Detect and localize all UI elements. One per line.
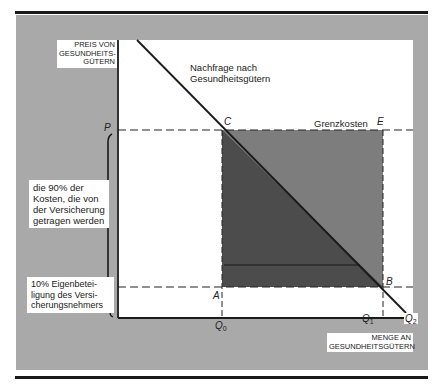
copay-note: 10% Eigenbetei- ligung des Versi- cherun…	[27, 277, 114, 313]
y-axis-label: PREIS VON GESUNDHEITS- GÜTERN	[57, 40, 117, 68]
x-axis-label-line: GESUNDHEITSGÜTERN	[329, 343, 411, 352]
q0-main: Q	[215, 320, 223, 331]
insurance-note-line: getragen werden	[33, 215, 105, 226]
point-label-p: P	[104, 122, 111, 133]
point-label-b: B	[386, 276, 393, 287]
q1-sub: 1	[370, 318, 374, 325]
tick-label-q0: Q0	[215, 320, 227, 331]
tick-label-q2: Q2	[404, 313, 418, 324]
q1-main: Q	[362, 313, 370, 324]
point-label-a: A	[213, 290, 220, 301]
insurance-note-line: der Versicherung	[33, 204, 105, 215]
insurance-note-line: die 90% der	[33, 182, 105, 193]
q2-sub: 2	[413, 318, 417, 325]
insurance-share-note: die 90% der Kosten, die von der Versiche…	[29, 180, 109, 228]
q0-sub: 0	[223, 325, 227, 332]
copay-note-line: 10% Eigenbetei-	[31, 279, 110, 290]
demand-label-line: Nachfrage nach	[190, 62, 270, 73]
marginal-cost-label: Grenzkosten	[314, 118, 368, 129]
copay-note-line: cherungsnehmers	[31, 300, 110, 311]
demand-label-line: Gesundheitsgütern	[190, 73, 270, 84]
point-label-e: E	[377, 116, 384, 127]
bottom-rule	[15, 376, 428, 379]
point-label-c: C	[224, 116, 231, 127]
insurance-note-line: Kosten, die von	[33, 193, 105, 204]
x-axis-label: MENGE AN GESUNDHEITSGÜTERN	[327, 333, 413, 352]
tick-label-q1: Q1	[362, 313, 374, 324]
y-axis-label-line: GÜTERN	[59, 58, 115, 67]
q2-main: Q	[405, 313, 413, 324]
demand-curve-label: Nachfrage nach Gesundheitsgütern	[190, 62, 270, 84]
copay-note-line: ligung des Versi-	[31, 290, 110, 301]
